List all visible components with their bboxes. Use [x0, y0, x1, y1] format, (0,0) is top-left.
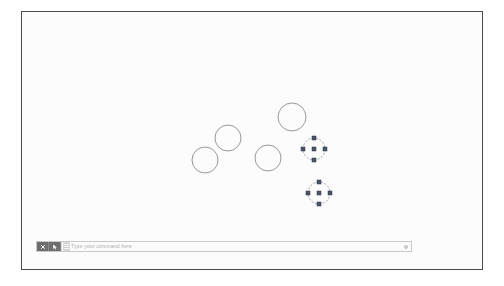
- grip-west[interactable]: [306, 191, 310, 195]
- drawing-canvas[interactable]: [22, 12, 482, 269]
- selected-circle-entity[interactable]: [306, 180, 332, 206]
- circle-entity[interactable]: [215, 125, 241, 151]
- grip-east[interactable]: [328, 191, 332, 195]
- grip-north[interactable]: [312, 136, 316, 140]
- command-prompt-icon: [63, 242, 70, 251]
- command-expand-button[interactable]: [401, 242, 411, 251]
- close-icon: [40, 244, 46, 250]
- grip-center[interactable]: [317, 191, 321, 195]
- command-bar: [36, 241, 412, 252]
- grip-north[interactable]: [317, 180, 321, 184]
- circle-entity[interactable]: [255, 145, 281, 171]
- canvas-entities-layer: [22, 12, 482, 269]
- command-options-button[interactable]: [49, 242, 61, 251]
- grip-center[interactable]: [312, 147, 316, 151]
- grip-south[interactable]: [312, 158, 316, 162]
- command-input-wrapper[interactable]: [61, 242, 411, 251]
- grip-south[interactable]: [317, 202, 321, 206]
- circle-entity[interactable]: [278, 103, 306, 131]
- selected-circle-entity[interactable]: [301, 136, 327, 162]
- cursor-arrow-icon: [52, 244, 58, 250]
- command-input[interactable]: [71, 242, 401, 251]
- circle-entity[interactable]: [192, 147, 218, 173]
- grip-east[interactable]: [323, 147, 327, 151]
- application-window: [21, 11, 483, 270]
- grip-west[interactable]: [301, 147, 305, 151]
- chevron-expand-icon: [403, 244, 409, 250]
- command-close-button[interactable]: [37, 242, 49, 251]
